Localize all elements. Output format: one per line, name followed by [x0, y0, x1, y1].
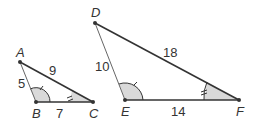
point-a [18, 60, 22, 64]
label-e: E [121, 104, 130, 119]
label-ef: 14 [171, 104, 185, 119]
label-ac: 9 [49, 63, 56, 78]
angle-e-tick [134, 82, 137, 85]
label-b: B [32, 106, 41, 121]
side-ac [20, 62, 93, 102]
similar-triangles-diagram: A B C 5 9 7 D E F 10 18 14 [0, 0, 256, 127]
point-e [123, 98, 127, 102]
point-d [93, 21, 97, 25]
label-d: D [91, 5, 100, 20]
triangle-def [93, 21, 241, 102]
side-df [95, 23, 239, 100]
point-f [237, 98, 241, 102]
point-b [34, 100, 38, 104]
label-ab: 5 [18, 76, 25, 91]
label-bc: 7 [56, 106, 63, 121]
label-df: 18 [163, 45, 177, 60]
angle-e-shade [119, 83, 143, 100]
label-f: F [236, 104, 245, 119]
triangle-abc [18, 60, 95, 104]
label-c: C [89, 106, 99, 121]
label-de: 10 [95, 59, 109, 74]
point-c [91, 100, 95, 104]
label-a: A [15, 45, 25, 60]
